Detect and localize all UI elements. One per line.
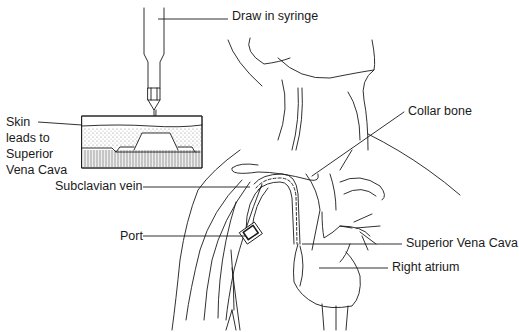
skin-cross-section — [82, 116, 202, 168]
label-port: Port — [120, 229, 143, 244]
port-device — [240, 222, 263, 244]
label-skin-line3: Superior — [6, 147, 53, 162]
label-draw-in-syringe: Draw in syringe — [232, 9, 318, 24]
diagram-canvas: Draw in syringe Skin leads to Superior V… — [0, 0, 519, 332]
label-collar-bone: Collar bone — [408, 104, 472, 119]
label-skin-line4: Vena Cava — [6, 163, 67, 178]
label-skin-line2: leads to — [6, 131, 50, 146]
label-skin-line1: Skin — [6, 115, 30, 130]
label-subclavian-vein: Subclavian vein — [55, 179, 143, 194]
label-superior-vena-cava: Superior Vena Cava — [406, 236, 518, 251]
leader-skin — [38, 122, 82, 125]
anatomy-illustration — [0, 0, 519, 332]
label-right-atrium: Right atrium — [392, 260, 459, 275]
